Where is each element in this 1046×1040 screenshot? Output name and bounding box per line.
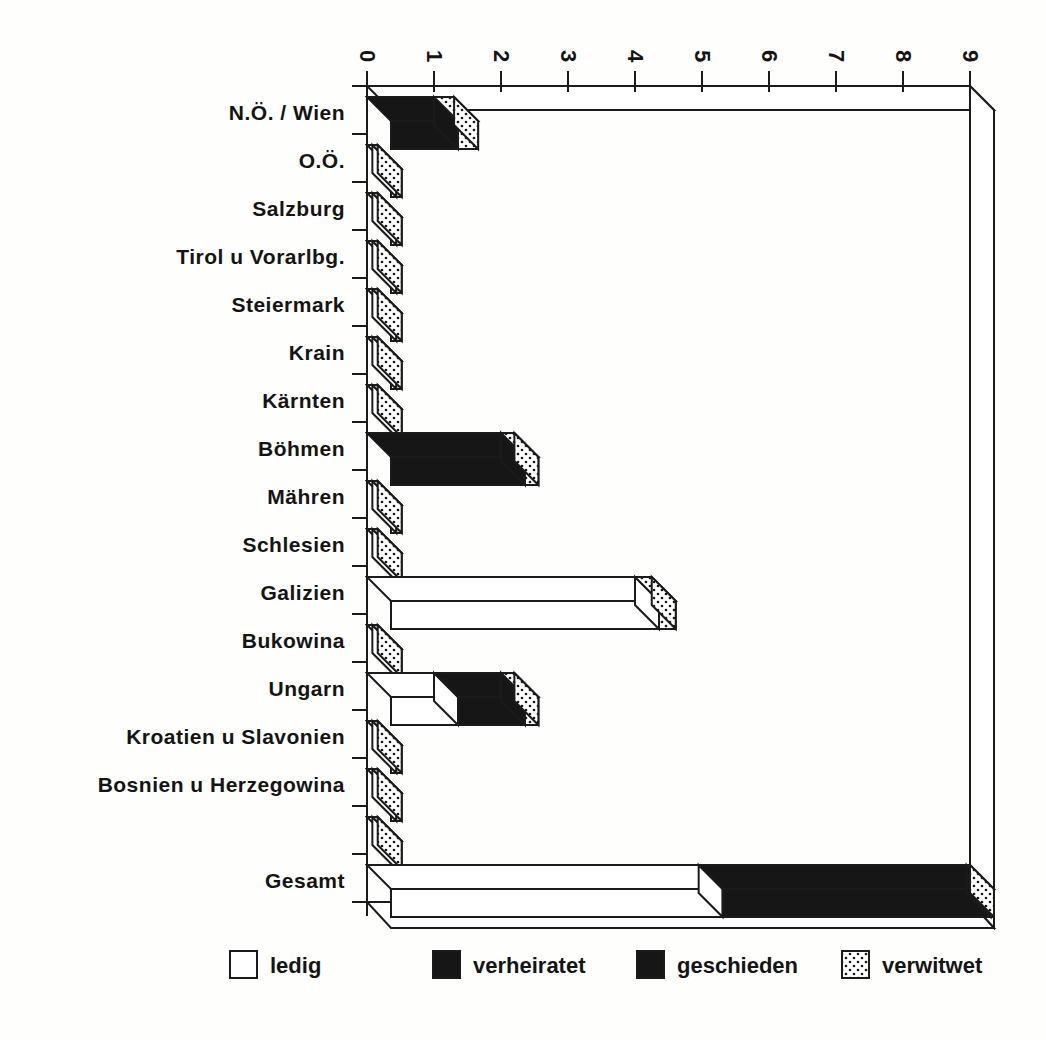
legend-item-verheiratet: verheiratet xyxy=(433,951,586,978)
value-axis-tick-label: 2 xyxy=(489,50,514,62)
legend-label-geschieden: geschieden xyxy=(677,953,798,978)
legend: ledigverheiratetgeschiedenverwitwet xyxy=(230,951,983,978)
value-axis-tick-label: 1 xyxy=(422,50,447,62)
category-label: Bukowina xyxy=(242,629,345,652)
category-label: N.Ö. / Wien xyxy=(229,101,345,124)
legend-label-ledig: ledig xyxy=(270,953,321,978)
category-label: Salzburg xyxy=(252,197,345,220)
legend-swatch-ledig xyxy=(230,951,257,978)
value-axis-tick-label: 6 xyxy=(757,50,782,62)
category-label: Kroatien u Slavonien xyxy=(126,725,345,748)
marital-status-3d-bar-chart: 0123456789 N.Ö. / WienO.Ö.SalzburgTirol … xyxy=(0,0,1046,1040)
value-axis-tick-label: 0 xyxy=(355,50,380,62)
value-axis-tick-label: 5 xyxy=(690,50,715,62)
value-axis-tick-label: 3 xyxy=(556,50,581,62)
box-right-wall-face xyxy=(970,86,994,928)
category-label: Tirol u Vorarlbg. xyxy=(176,245,345,268)
bar-front-verheiratet xyxy=(723,889,991,917)
bar-front-ledig xyxy=(391,889,723,917)
category-label: Krain xyxy=(289,341,345,364)
legend-swatch-verwitwet xyxy=(842,951,869,978)
plot-area: 0123456789 xyxy=(352,50,994,928)
category-label: Steiermark xyxy=(231,293,345,316)
category-label: O.Ö. xyxy=(299,149,345,172)
category-label: Kärnten xyxy=(262,389,345,412)
category-label: Gesamt xyxy=(265,869,345,892)
category-labels: N.Ö. / WienO.Ö.SalzburgTirol u Vorarlbg.… xyxy=(98,101,345,892)
bar-top-ledig xyxy=(367,577,659,601)
bar-top-verheiratet xyxy=(699,865,991,889)
category-label: Ungarn xyxy=(269,677,346,700)
category-label: Böhmen xyxy=(258,437,345,460)
legend-item-verwitwet: verwitwet xyxy=(842,951,983,978)
value-axis-tick-label: 8 xyxy=(891,50,916,62)
category-label: Galizien xyxy=(260,581,345,604)
value-axis-tick-label: 7 xyxy=(824,50,849,62)
legend-label-verheiratet: verheiratet xyxy=(473,953,586,978)
category-label: Bosnien u Herzegowina xyxy=(98,773,345,796)
legend-item-geschieden: geschieden xyxy=(637,951,798,978)
bar-top-ledig xyxy=(367,865,723,889)
value-axis-tick-label: 9 xyxy=(958,50,983,62)
legend-swatch-verheiratet xyxy=(433,951,460,978)
legend-label-verwitwet: verwitwet xyxy=(882,953,983,978)
category-label: Mähren xyxy=(267,485,345,508)
value-axis-tick-label: 4 xyxy=(623,50,648,63)
legend-item-ledig: ledig xyxy=(230,951,321,978)
category-label: Schlesien xyxy=(242,533,345,556)
bar-front-ledig xyxy=(391,601,659,629)
legend-swatch-geschieden xyxy=(637,951,664,978)
scanned-chart-page: 0123456789 N.Ö. / WienO.Ö.SalzburgTirol … xyxy=(0,0,1046,1040)
